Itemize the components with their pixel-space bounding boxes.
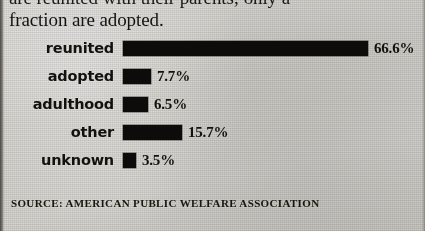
bar-chart: reunited66.6%adopted7.7%adulthood6.5%oth… xyxy=(0,36,425,176)
bar-category-label: other xyxy=(0,124,114,140)
bar-category-label: adopted xyxy=(0,68,114,84)
bar-value-label: 66.6% xyxy=(374,40,414,57)
bar-value-label: 3.5% xyxy=(142,152,175,169)
intro-paragraph: are reunited with their parents; only a … xyxy=(9,0,413,31)
intro-line-visible: fraction are adopted. xyxy=(9,9,164,30)
bar-category-label: reunited xyxy=(0,40,114,56)
bar-fill xyxy=(123,69,151,84)
bar-category-label: adulthood xyxy=(0,96,114,112)
newspaper-infographic-panel: are reunited with their parents; only a … xyxy=(0,0,425,231)
bar-fill xyxy=(123,153,136,168)
chart-row: other15.7% xyxy=(0,120,425,148)
chart-row: unknown3.5% xyxy=(0,148,425,176)
chart-row: adulthood6.5% xyxy=(0,92,425,120)
bar-value-label: 7.7% xyxy=(157,68,190,85)
bar-fill xyxy=(123,41,368,56)
bar-value-label: 6.5% xyxy=(154,96,187,113)
chart-row: reunited66.6% xyxy=(0,36,425,64)
bar-fill xyxy=(123,125,182,140)
bar-fill xyxy=(123,97,148,112)
bar-value-label: 15.7% xyxy=(188,124,228,141)
chart-row: adopted7.7% xyxy=(0,64,425,92)
source-credit: SOURCE: AMERICAN PUBLIC WELFARE ASSOCIAT… xyxy=(11,197,319,209)
bar-category-label: unknown xyxy=(0,152,114,168)
intro-line-clipped: are reunited with their parents; only a xyxy=(9,0,413,9)
